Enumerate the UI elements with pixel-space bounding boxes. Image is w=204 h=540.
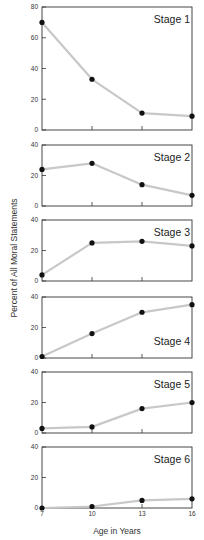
data-point — [39, 354, 44, 359]
data-point — [189, 243, 194, 248]
y-tick-label: 40 — [31, 443, 39, 450]
panel-frame — [42, 7, 192, 130]
stage-label: Stage 5 — [154, 378, 190, 390]
x-tick-label: 10 — [88, 510, 96, 517]
data-point — [89, 424, 94, 429]
data-point — [189, 400, 194, 405]
series-line — [42, 403, 192, 429]
data-point — [139, 498, 144, 503]
data-point — [139, 406, 144, 411]
y-tick-label: 0 — [34, 429, 38, 436]
data-point — [139, 110, 144, 115]
y-tick-label: 60 — [31, 34, 39, 41]
data-point — [189, 496, 194, 501]
y-tick-label: 80 — [31, 3, 39, 10]
y-tick-label: 20 — [31, 96, 39, 103]
y-tick-label: 0 — [34, 277, 38, 284]
x-tick-label: 7 — [40, 510, 44, 517]
y-tick-label: 20 — [31, 324, 39, 331]
series-line — [42, 305, 192, 357]
series-line — [42, 499, 192, 508]
stage-label: Stage 1 — [154, 13, 190, 25]
y-tick-label: 40 — [31, 216, 39, 223]
data-point — [139, 182, 144, 187]
x-tick-label: 16 — [188, 510, 196, 517]
stage-label: Stage 3 — [154, 226, 190, 238]
data-point — [39, 272, 44, 277]
x-axis-label: Age in Years — [93, 526, 141, 536]
data-point — [189, 114, 194, 119]
data-point — [139, 239, 144, 244]
x-tick-label: 13 — [138, 510, 146, 517]
y-tick-label: 0 — [34, 354, 38, 361]
y-tick-label: 20 — [31, 399, 39, 406]
data-point — [89, 504, 94, 509]
data-point — [89, 240, 94, 245]
stage-development-chart: 020406080Stage 102040Stage 202040Stage 3… — [0, 0, 204, 540]
data-point — [189, 302, 194, 307]
panel-frame — [42, 297, 192, 358]
y-axis-label: Percent of All Moral Statements — [9, 198, 19, 317]
y-tick-label: 20 — [31, 247, 39, 254]
data-point — [89, 331, 94, 336]
series-line — [42, 241, 192, 275]
series-line — [42, 22, 192, 116]
data-point — [189, 193, 194, 198]
y-tick-label: 40 — [31, 65, 39, 72]
y-tick-label: 20 — [31, 474, 39, 481]
data-point — [89, 77, 94, 82]
data-point — [89, 161, 94, 166]
stage-label: Stage 2 — [154, 151, 190, 163]
stage-label: Stage 6 — [154, 453, 190, 465]
y-tick-label: 20 — [31, 172, 39, 179]
data-point — [39, 20, 44, 25]
y-tick-label: 0 — [34, 126, 38, 133]
series-line — [42, 163, 192, 195]
y-tick-label: 0 — [34, 504, 38, 511]
y-tick-label: 40 — [31, 141, 39, 148]
data-point — [39, 426, 44, 431]
y-tick-label: 0 — [34, 202, 38, 209]
stage-label: Stage 4 — [154, 335, 190, 347]
data-point — [139, 310, 144, 315]
y-tick-label: 40 — [31, 293, 39, 300]
data-point — [39, 167, 44, 172]
y-tick-label: 40 — [31, 368, 39, 375]
